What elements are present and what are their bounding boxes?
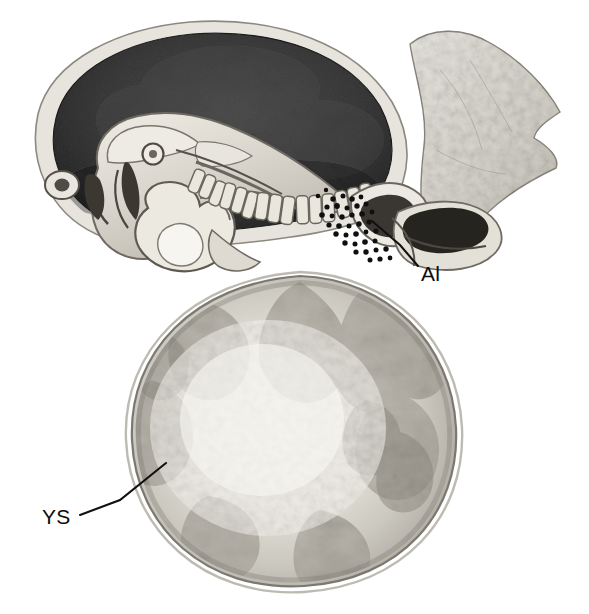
ventricle-chamber [158, 224, 203, 266]
allantois-structure [392, 202, 502, 270]
lens-placode [55, 179, 70, 192]
allantois-label: Al [421, 262, 440, 285]
illustration-canvas: Al YS [0, 0, 589, 614]
yolk-sac-label: YS [42, 505, 71, 528]
anatomical-figure: Al YS [0, 0, 589, 614]
